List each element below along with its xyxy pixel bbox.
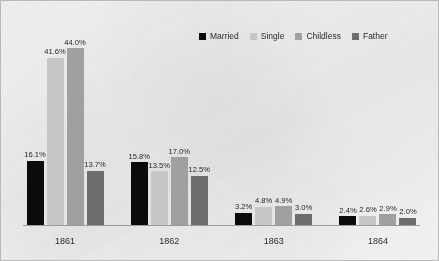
bar-value-label: 41.6%: [44, 48, 66, 56]
bar-childless-1862[interactable]: 17.0%: [171, 15, 188, 226]
x-tick-label-1864: 1864: [336, 237, 420, 246]
legend-entry-childless[interactable]: Childless: [295, 32, 341, 41]
bar-value-label: 17.0%: [169, 148, 191, 156]
bar-married-1861[interactable]: 16.1%: [27, 15, 44, 226]
bar-value-label: 3.2%: [235, 203, 252, 211]
bar-value-label: 4.9%: [275, 197, 292, 205]
bar-single-1863[interactable]: 4.8%: [255, 15, 272, 226]
bar-group-1863: 3.2%4.8%4.9%3.0%: [232, 15, 316, 226]
legend-swatch-icon: [295, 33, 302, 40]
bar-childless-1864[interactable]: 2.9%: [379, 15, 396, 226]
legend-entry-label: Single: [261, 32, 285, 41]
bar-rect: [67, 48, 84, 226]
bar-single-1862[interactable]: 13.5%: [151, 15, 168, 226]
bar-single-1861[interactable]: 41.6%: [47, 15, 64, 226]
bar-rect: [255, 207, 272, 226]
x-tick-label-1862: 1862: [127, 237, 211, 246]
bar-married-1864[interactable]: 2.4%: [339, 15, 356, 226]
legend-swatch-icon: [250, 33, 257, 40]
bar-single-1864[interactable]: 2.6%: [359, 15, 376, 226]
bar-value-label: 12.5%: [189, 166, 211, 174]
bar-rect: [131, 162, 148, 226]
bar-father-1861[interactable]: 13.7%: [87, 15, 104, 226]
x-tick-label-1863: 1863: [232, 237, 316, 246]
bar-childless-1863[interactable]: 4.9%: [275, 15, 292, 226]
x-axis-tick-labels: 1861186218631864: [23, 237, 420, 246]
bar-married-1862[interactable]: 15.8%: [131, 15, 148, 226]
bar-rect: [27, 161, 44, 226]
legend-entry-label: Childless: [306, 32, 341, 41]
bar-father-1864[interactable]: 2.0%: [399, 15, 416, 226]
bar-chart-figure: MarriedSingleChildlessFather 16.1%41.6%4…: [0, 0, 439, 261]
legend-swatch-icon: [352, 33, 359, 40]
bar-rect: [47, 58, 64, 226]
bar-rect: [171, 157, 188, 226]
legend-entry-father[interactable]: Father: [352, 32, 388, 41]
bar-group-1864: 2.4%2.6%2.9%2.0%: [336, 15, 420, 226]
bar-value-label: 2.4%: [339, 207, 356, 215]
plot-area: 16.1%41.6%44.0%13.7%15.8%13.5%17.0%12.5%…: [23, 15, 420, 226]
bar-rect: [151, 171, 168, 226]
x-axis-baseline: [23, 225, 420, 226]
legend-entry-label: Father: [363, 32, 388, 41]
legend-swatch-icon: [199, 33, 206, 40]
legend-entry-single[interactable]: Single: [250, 32, 285, 41]
chart-legend: MarriedSingleChildlessFather: [199, 32, 388, 41]
bar-value-label: 3.0%: [295, 204, 312, 212]
bar-value-label: 2.9%: [379, 205, 396, 213]
bar-value-label: 2.6%: [359, 206, 376, 214]
bar-value-label: 2.0%: [399, 208, 416, 216]
bar-value-label: 13.5%: [149, 162, 171, 170]
bar-rect: [191, 176, 208, 227]
bar-father-1863[interactable]: 3.0%: [295, 15, 312, 226]
bar-value-label: 16.1%: [24, 151, 46, 159]
bar-value-label: 44.0%: [64, 39, 86, 47]
bar-rect: [87, 171, 104, 226]
bar-value-label: 13.7%: [84, 161, 106, 169]
bar-group-1862: 15.8%13.5%17.0%12.5%: [127, 15, 211, 226]
x-tick-label-1861: 1861: [23, 237, 107, 246]
bar-groups: 16.1%41.6%44.0%13.7%15.8%13.5%17.0%12.5%…: [23, 15, 420, 226]
bar-married-1863[interactable]: 3.2%: [235, 15, 252, 226]
bar-value-label: 15.8%: [129, 153, 151, 161]
legend-entry-married[interactable]: Married: [199, 32, 239, 41]
bar-group-1861: 16.1%41.6%44.0%13.7%: [23, 15, 107, 226]
bar-father-1862[interactable]: 12.5%: [191, 15, 208, 226]
legend-entry-label: Married: [210, 32, 239, 41]
bar-childless-1861[interactable]: 44.0%: [67, 15, 84, 226]
bar-value-label: 4.8%: [255, 197, 272, 205]
bar-rect: [275, 206, 292, 226]
